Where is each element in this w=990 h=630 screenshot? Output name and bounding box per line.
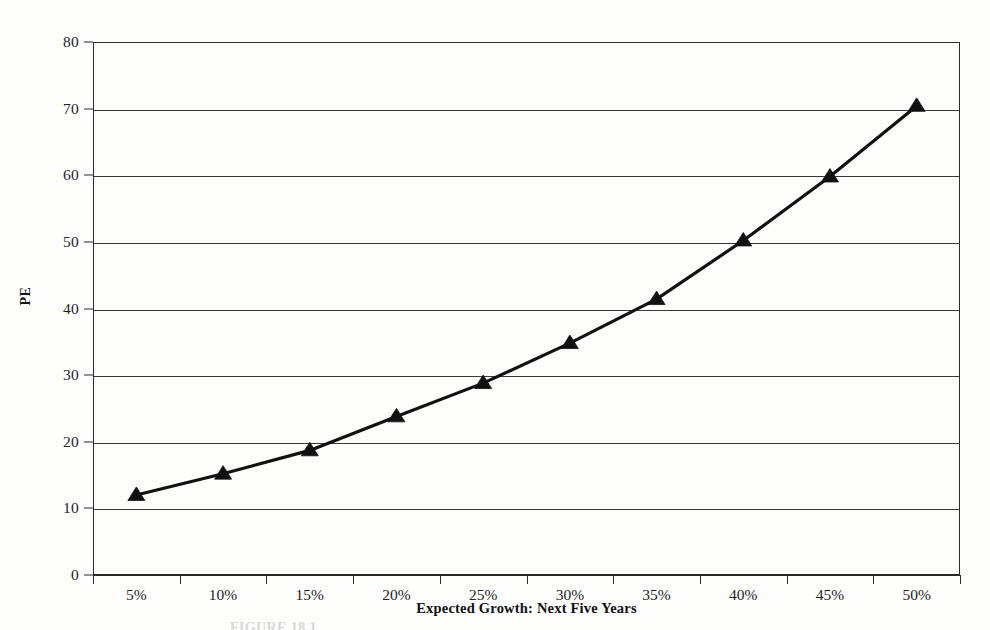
y-tick-mark [84, 308, 93, 309]
x-axis-title: Expected Growth: Next Five Years [93, 600, 960, 617]
y-tick-label: 0 [71, 567, 79, 583]
y-tick-label: 40 [63, 301, 79, 317]
x-tick-mark [527, 575, 528, 584]
plot-area [93, 42, 960, 575]
gridline [94, 509, 959, 510]
figure-canvas: PE 01020304050607080 5%10%15%20%25%30%35… [0, 0, 990, 630]
y-axis: 01020304050607080 [0, 0, 93, 630]
x-tick-mark [960, 575, 961, 584]
y-tick-mark [84, 575, 93, 576]
y-tick-label: 20 [63, 434, 79, 450]
x-tick-mark [613, 575, 614, 584]
gridline [94, 110, 959, 111]
y-tick-label: 60 [63, 168, 79, 184]
gridline [94, 443, 959, 444]
y-tick-label: 80 [63, 34, 79, 50]
y-tick-mark [84, 108, 93, 109]
gridline [94, 310, 959, 311]
y-tick-label: 50 [63, 234, 79, 250]
figure-caption: FIGURE 18.1 [230, 620, 317, 630]
y-tick-label: 10 [63, 501, 79, 517]
gridline [94, 243, 959, 244]
x-tick-mark [93, 575, 94, 584]
x-tick-mark [353, 575, 354, 584]
y-tick-label: 70 [63, 101, 79, 117]
gridline [94, 376, 959, 377]
x-tick-mark [873, 575, 874, 584]
x-tick-mark [700, 575, 701, 584]
gridline [94, 176, 959, 177]
x-tick-mark [266, 575, 267, 584]
y-tick-label: 30 [63, 367, 79, 383]
y-tick-mark [84, 508, 93, 509]
x-tick-mark [787, 575, 788, 584]
y-tick-mark [84, 175, 93, 176]
y-tick-mark [84, 241, 93, 242]
x-tick-mark [180, 575, 181, 584]
x-tick-mark [440, 575, 441, 584]
y-tick-mark [84, 375, 93, 376]
y-tick-mark [84, 42, 93, 43]
y-tick-mark [84, 441, 93, 442]
